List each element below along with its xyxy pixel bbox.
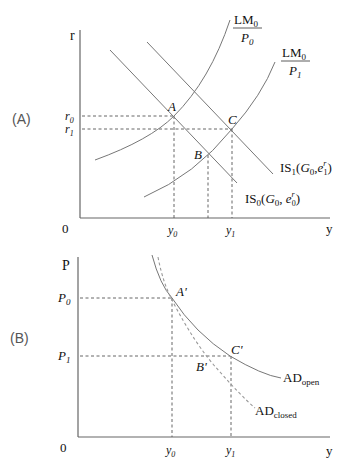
is0-label: IS0(G0, er0) — [245, 190, 300, 208]
origin-b: 0 — [60, 440, 67, 455]
ad-closed-label: ADclosed — [255, 403, 297, 420]
y1-label-b: y1 — [225, 443, 235, 459]
panel-b: (B) P 0 y P0 P1 y0 y1 A' B' C' ADopen AD… — [10, 255, 333, 459]
point-b-prime: B' — [196, 359, 207, 374]
is1-label: IS1(G0,er1) — [280, 159, 332, 177]
point-a-prime: A' — [175, 284, 187, 299]
y0-label-a: y0 — [167, 223, 177, 239]
p1-label: P1 — [57, 348, 70, 365]
ad-open-curve — [152, 255, 281, 378]
lm-p0-curve — [95, 20, 230, 160]
p0-label: P0 — [57, 290, 71, 307]
r-axis-label: r — [70, 28, 75, 43]
lm-p0-label: LM0 P0 — [233, 12, 262, 47]
panel-b-label: (B) — [10, 330, 29, 346]
svg-text:LM0: LM0 — [282, 45, 307, 62]
point-c-prime: C' — [231, 342, 243, 357]
point-a: A — [167, 99, 176, 114]
y-axis-label-b: y — [326, 443, 333, 458]
svg-text:LM0: LM0 — [234, 12, 259, 29]
panel-a-label: (A) — [12, 111, 31, 127]
lm-p1-label: LM0 P1 — [281, 45, 310, 80]
y0-label-b: y0 — [165, 443, 175, 459]
point-c: C — [228, 112, 237, 127]
y-axis-label-a: y — [326, 221, 333, 236]
point-b: B — [194, 147, 202, 162]
origin-a: 0 — [62, 221, 69, 236]
svg-text:P1: P1 — [288, 63, 301, 80]
lm-p1-curve — [144, 62, 275, 197]
svg-text:P0: P0 — [240, 30, 254, 47]
ad-open-label: ADopen — [283, 370, 320, 387]
is-lm-ad-diagram: (A) r 0 y r0 r1 y0 y1 A B C LM0 P0 — [0, 0, 344, 466]
ad-closed-curve — [158, 257, 255, 408]
panel-a: (A) r 0 y r0 r1 y0 y1 A B C LM0 P0 — [12, 12, 333, 239]
p-axis-label: P — [62, 258, 70, 273]
y1-label-a: y1 — [225, 223, 235, 239]
